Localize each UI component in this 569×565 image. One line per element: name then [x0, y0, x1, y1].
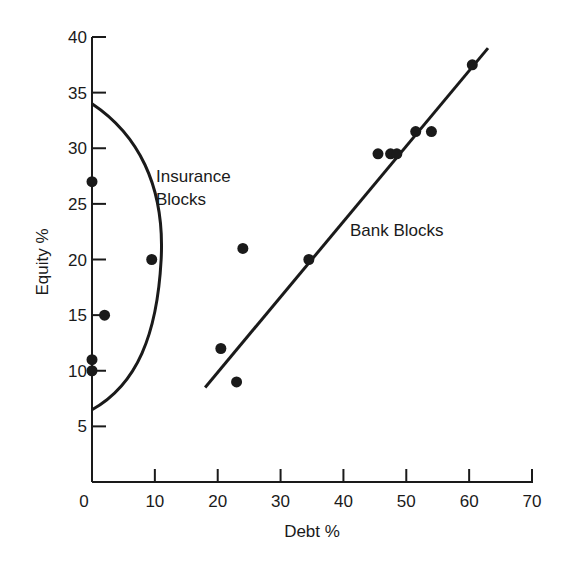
data-point: [87, 365, 98, 376]
scatter-chart: 010203040506070 510152025303540 Debt % E…: [0, 0, 569, 565]
data-point: [467, 59, 478, 70]
x-tick-label: 70: [523, 492, 542, 511]
data-point: [373, 148, 384, 159]
x-ticks: 010203040506070: [79, 469, 541, 511]
y-tick-label: 35: [68, 84, 87, 103]
data-point: [426, 126, 437, 137]
data-point: [99, 310, 110, 321]
bank-fit-line: [205, 48, 488, 387]
data-point: [215, 343, 226, 354]
data-point: [303, 254, 314, 265]
x-tick-label: 60: [460, 492, 479, 511]
data-point: [146, 254, 157, 265]
x-tick-label: 50: [397, 492, 416, 511]
x-tick-label: 20: [208, 492, 227, 511]
data-point: [87, 354, 98, 365]
y-tick-label: 25: [68, 195, 87, 214]
y-tick-label: 40: [68, 28, 87, 47]
y-tick-label: 30: [68, 139, 87, 158]
y-axis-title: Equity %: [33, 228, 52, 295]
data-point: [87, 176, 98, 187]
x-axis-title: Debt %: [284, 522, 340, 541]
y-tick-label: 15: [68, 306, 87, 325]
x-tick-label: 0: [79, 492, 88, 511]
insurance-label-line1: Insurance: [156, 167, 231, 186]
insurance-label-line2: Blocks: [156, 190, 206, 209]
x-tick-label: 10: [145, 492, 164, 511]
bank-blocks-label: Bank Blocks: [350, 221, 444, 240]
y-tick-label: 10: [68, 362, 87, 381]
data-point: [231, 376, 242, 387]
data-point: [391, 148, 402, 159]
data-point: [410, 126, 421, 137]
y-tick-label: 5: [78, 417, 87, 436]
y-tick-label: 20: [68, 251, 87, 270]
data-point: [237, 243, 248, 254]
x-tick-label: 40: [334, 492, 353, 511]
y-ticks: 510152025303540: [68, 28, 106, 436]
x-tick-label: 30: [271, 492, 290, 511]
